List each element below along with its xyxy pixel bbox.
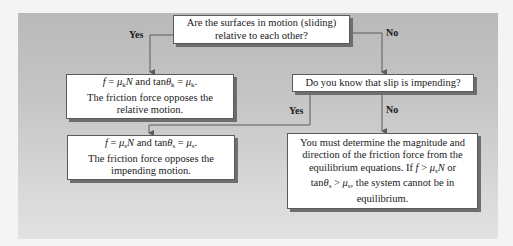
- box-text-line: You must determine the magnitude and: [300, 137, 465, 150]
- kinetic-formula: f = μkN and tanθk = μk.: [103, 76, 197, 92]
- box-text-line: equilibrium.: [357, 193, 409, 206]
- decision-box-impending: Do you know that slip is impending?: [292, 74, 474, 92]
- box-text-line: relative motion.: [117, 104, 183, 117]
- edge-q1-no: [350, 33, 382, 72]
- edge-q1-yes: [150, 35, 173, 72]
- result-box-static: f = μsN and tanθs = μs. The friction for…: [67, 135, 235, 180]
- box-text-line: equilibrium equations. If f > μsN or: [309, 162, 456, 178]
- static-formula: f = μsN and tanθs = μs.: [105, 137, 197, 153]
- edge-label-yes-2: Yes: [289, 105, 303, 116]
- box-text-line: impending motion.: [111, 165, 191, 178]
- box-text-line: The friction force opposes the: [88, 153, 214, 166]
- box-text-line: relative to each other?: [215, 30, 308, 43]
- box-text-line: Do you know that slip is impending?: [305, 77, 460, 90]
- result-box-kinetic: f = μkN and tanθk = μk. The friction for…: [66, 74, 234, 119]
- edge-label-no-2: No: [386, 104, 398, 115]
- result-box-equilibrium: You must determine the magnitude and dir…: [287, 133, 478, 209]
- box-text-line: The friction force opposes the: [87, 92, 213, 105]
- decision-box-sliding: Are the surfaces in motion (sliding) rel…: [173, 15, 350, 44]
- box-text-line: direction of the friction force from the: [302, 149, 462, 162]
- box-text-line: Are the surfaces in motion (sliding): [187, 17, 337, 30]
- box-text-line: tanθs > μs, the system cannot be in: [311, 177, 455, 193]
- edge-label-yes-1: Yes: [129, 29, 143, 40]
- edge-label-no-1: No: [386, 27, 398, 38]
